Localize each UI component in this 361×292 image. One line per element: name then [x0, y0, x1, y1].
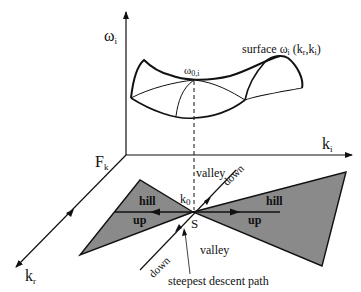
omega-axis-label: ωi: [104, 28, 117, 44]
fk-label: Fk: [95, 154, 108, 170]
up-label-right: up: [248, 214, 261, 226]
k0-label: k0: [180, 193, 191, 205]
surface-label: surface ωi (kr,ki): [242, 43, 321, 55]
valley-label-bottom: valley: [200, 244, 229, 256]
path-pointer-arrow-icon: [182, 228, 187, 236]
saddle-surface: [131, 56, 302, 118]
hill-label-left: hill: [139, 195, 156, 207]
ki-axis-label: ki: [322, 136, 333, 152]
kr-axis-label: kr: [25, 268, 36, 284]
path-pointer-line: [185, 232, 190, 274]
down-arrow-bottom-icon: [175, 224, 182, 232]
kr-axis-mid-arrow-icon: [66, 209, 74, 217]
hill-label-right: hill: [266, 195, 283, 207]
saddle-value-label: ω0,i: [184, 65, 199, 76]
saddle-point-label: S: [191, 217, 198, 230]
up-label-left: up: [133, 214, 146, 226]
steepest-descent-path-label: steepest descent path: [168, 275, 269, 287]
down-arrow-top-icon: [204, 197, 211, 205]
